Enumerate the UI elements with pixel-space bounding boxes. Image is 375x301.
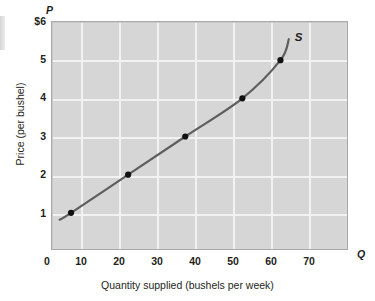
data-point-60-5 [277, 57, 283, 63]
x-tick-label-0: 0 [36, 255, 58, 267]
supply-curve-figure: P Q $6 5 4 3 2 1 0 10 20 30 40 50 60 70 … [0, 0, 375, 301]
plot-area [51, 21, 348, 250]
x-tick-label-60: 60 [260, 255, 282, 267]
x-tick-label-50: 50 [222, 255, 244, 267]
data-point-20-2 [125, 172, 131, 178]
supply-curve-line [60, 39, 289, 220]
x-tick-label-40: 40 [184, 255, 206, 267]
x-tick-label-70: 70 [298, 255, 320, 267]
x-tick-label-30: 30 [146, 255, 168, 267]
page-edge-artifact [0, 16, 5, 50]
curve-label-S: S [295, 31, 303, 43]
y-tick-label-1: 1 [14, 207, 46, 219]
x-axis-symbol: Q [357, 248, 365, 260]
x-axis-title: Quantity supplied (bushels per week) [0, 279, 375, 291]
supply-curve-plot [52, 22, 348, 250]
data-point-5-1 [68, 210, 74, 216]
data-point-35-3 [182, 133, 188, 139]
x-tick-label-20: 20 [108, 255, 130, 267]
y-axis-symbol: P [46, 4, 53, 16]
data-point-50-4 [239, 95, 245, 101]
x-tick-label-10: 10 [70, 255, 92, 267]
y-axis-title: Price (per bushel) [14, 54, 26, 194]
y-tick-label-6: $6 [14, 15, 46, 27]
